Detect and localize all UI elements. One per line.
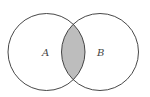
set-b-label: B (96, 47, 104, 58)
venn-diagram: A B (0, 0, 150, 97)
set-a-label: A (41, 47, 49, 58)
